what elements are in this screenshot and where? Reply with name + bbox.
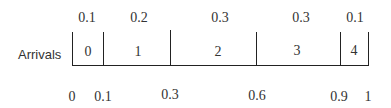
row-label: Arrivals: [18, 48, 61, 62]
cumulative-tick-0: 0: [69, 90, 76, 104]
divider-0-1: [103, 32, 104, 66]
segment-value-2: 2: [215, 45, 222, 59]
divider-0-9: [340, 32, 341, 66]
divider-0-3: [170, 30, 171, 66]
probability-interval-diagram: 0.1 0.2 0.3 0.3 0.1 Arrivals 0 1 2 3 4 0…: [0, 0, 391, 108]
probability-label-2: 0.3: [211, 11, 229, 25]
cumulative-tick-0-3: 0.3: [161, 88, 179, 102]
cumulative-tick-1: 1: [365, 90, 372, 104]
probability-label-3: 0.3: [292, 11, 310, 25]
divider-0: [72, 32, 73, 66]
cumulative-tick-0-1: 0.1: [94, 90, 112, 104]
cumulative-tick-0-6: 0.6: [248, 89, 266, 103]
probability-label-1: 0.2: [130, 11, 148, 25]
cumulative-tick-0-9: 0.9: [330, 90, 348, 104]
segment-value-1: 1: [135, 45, 142, 59]
divider-1: [368, 32, 369, 66]
segment-value-0: 0: [85, 45, 92, 59]
segment-value-3: 3: [294, 44, 301, 58]
probability-label-0: 0.1: [78, 11, 96, 25]
segment-value-4: 4: [351, 44, 358, 58]
divider-0-6: [256, 32, 257, 66]
baseline: [72, 65, 369, 66]
probability-label-4: 0.1: [346, 11, 364, 25]
